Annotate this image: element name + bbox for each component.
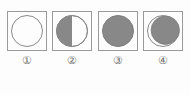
moon-phase-figure: ① ② ③ [0,0,190,95]
phase-label-4: ④ [158,54,168,66]
phase-label-3: ③ [113,54,123,66]
phase-panel-row: ① ② ③ [0,11,190,66]
phase-frame-2 [52,11,92,51]
phase-panel-3: ③ [96,11,139,66]
moon-disk-icon-4 [146,14,180,48]
phase-frame-4 [143,11,183,51]
moon-disk-icon-1 [10,14,44,48]
moon-disk-icon-2 [55,14,89,48]
phase-frame-1 [7,11,47,51]
moon-disk-icon-3 [101,14,135,48]
phase-panel-2: ② [51,11,94,66]
phase-label-1: ① [22,54,32,66]
phase-panel-1: ① [5,11,48,66]
phase-panel-4: ④ [142,11,185,66]
phase-frame-3 [98,11,138,51]
phase-label-2: ② [67,54,77,66]
